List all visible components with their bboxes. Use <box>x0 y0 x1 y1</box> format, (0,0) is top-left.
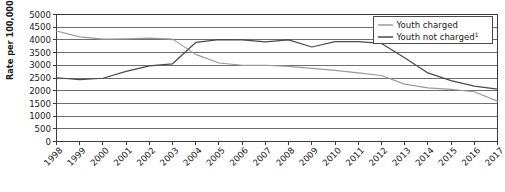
y-tick-label: 2000 <box>29 86 51 96</box>
x-tick-label: 2011 <box>344 145 367 168</box>
x-tick-label: 2005 <box>204 145 227 168</box>
y-axis-ticks: 0500100015002000250030003500400045005000 <box>29 10 56 147</box>
x-tick-label: 2008 <box>274 145 297 168</box>
x-tick-label: 2012 <box>367 145 390 168</box>
x-tick-label: 2001 <box>112 145 135 168</box>
y-tick-label: 3500 <box>29 48 51 58</box>
x-tick-label: 2003 <box>158 145 181 168</box>
legend-footnote-marker: 1 <box>475 31 479 38</box>
x-tick-label: 2009 <box>297 145 320 168</box>
x-tick-label: 2010 <box>320 145 343 168</box>
x-tick-label: 1998 <box>42 145 65 168</box>
y-tick-label: 2500 <box>29 73 51 83</box>
y-tick-label: 0 <box>46 137 51 147</box>
x-tick-label: 2004 <box>181 145 204 168</box>
y-axis-label-text: Rate per 100,000 youth <box>5 0 15 80</box>
x-tick-label: 2006 <box>228 145 251 168</box>
x-tick-label: 2016 <box>460 145 483 168</box>
legend-label-2: Youth not charged1 <box>396 31 479 42</box>
x-tick-label: 2000 <box>88 145 111 168</box>
x-tick-label: 2014 <box>413 145 436 168</box>
y-tick-label: 3000 <box>29 60 51 70</box>
x-tick-label: 2017 <box>483 145 505 168</box>
y-tick-label: 4000 <box>29 35 51 45</box>
x-tick-label: 1999 <box>65 145 88 168</box>
x-tick-label: 2002 <box>135 145 158 168</box>
chart-canvas: Rate per 100,000 youth 05001000150020002… <box>0 0 505 192</box>
y-tick-label: 1500 <box>29 99 51 109</box>
x-tick-label: 2007 <box>251 145 274 168</box>
y-axis-label: Rate per 100,000 youth <box>5 0 15 80</box>
line-chart: Rate per 100,000 youth 05001000150020002… <box>0 0 505 192</box>
legend-label-1: Youth charged <box>396 20 458 30</box>
y-tick-label: 5000 <box>29 10 51 20</box>
series-line-2 <box>57 40 498 90</box>
x-tick-label: 2015 <box>436 145 459 168</box>
y-tick-label: 500 <box>35 124 51 134</box>
x-axis-ticks: 1998199920002001200220032004200520062007… <box>42 142 505 168</box>
chart-legend: Youth chargedYouth not charged1 <box>374 17 493 44</box>
x-tick-label: 2013 <box>390 145 413 168</box>
y-tick-label: 1000 <box>29 111 51 121</box>
y-tick-label: 4500 <box>29 22 51 32</box>
